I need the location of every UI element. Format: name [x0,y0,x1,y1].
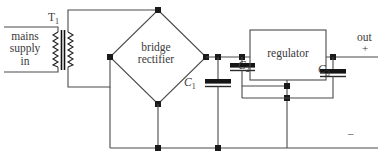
transformer-primary-coil [53,32,58,67]
c2-label-sub: 2 [246,65,250,74]
c3-label: C3 [318,63,330,79]
bridge-rectifier-line-1: bridge [118,41,194,53]
c3-label-sub: 3 [326,69,330,78]
c1-label: C1 [184,76,196,92]
c2-label-text: C [238,59,246,71]
secondary-top-wire [68,10,158,32]
transformer-secondary-coil [68,32,73,67]
bridge-node-left [107,54,113,60]
bridge-node-top [155,7,161,13]
mains-supply-line-2: supply [2,42,48,54]
schematic-canvas: mains supply in T1 bridge rectifier regu… [0,0,389,164]
mains-supply-line-3: in [2,55,48,67]
transformer-label-text: T [48,11,55,23]
output-positive-polarity: + [362,43,368,55]
regulator-label: regulator [250,47,326,59]
output-negative-polarity: – [348,128,354,140]
transformer-label: T1 [48,11,59,27]
c2-label: C2 [238,59,250,75]
mains-input-bottom-lead [4,67,58,72]
mains-supply-line-1: mains [2,30,48,42]
mains-supply-label: mains supply in [2,30,48,67]
node-regulator-ground [284,83,290,89]
bridge-rectifier-line-2: rectifier [118,53,194,65]
node-rail-bridge [155,145,161,151]
c3-label-text: C [318,63,326,75]
c1-plate-positive [205,79,231,84]
node-rail-c1 [215,145,221,151]
transformer-label-sub: 1 [55,17,59,26]
secondary-bottom-wire [68,57,110,87]
c1-label-sub: 1 [192,82,196,91]
c1-label-text: C [184,76,192,88]
bridge-rectifier-label: bridge rectifier [118,41,194,66]
